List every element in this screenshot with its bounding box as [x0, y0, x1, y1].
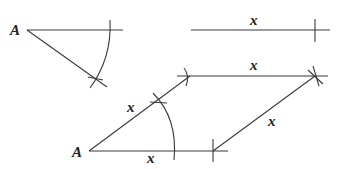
rhombus: A x x x x [71, 57, 328, 166]
given-length-segment: x [191, 12, 330, 42]
left-side-intersection-tick [150, 102, 167, 103]
vertex-label-a-step3: A [71, 144, 82, 160]
vertex-label-a-step1: A [9, 22, 20, 38]
left-side-label-x: x [126, 99, 135, 115]
top-side-label-x: x [249, 57, 258, 73]
rhombus-right-side [213, 76, 315, 151]
length-label-x: x [249, 12, 258, 28]
rhombus-construction-diagram: A x A x x x x [0, 0, 349, 169]
angle-construction: A [9, 20, 123, 88]
top-left-tick [184, 68, 188, 86]
bottom-side-label-x: x [146, 150, 155, 166]
right-side-label-x: x [267, 113, 276, 129]
rhombus-left-side [89, 76, 190, 151]
top-right-cross-2 [308, 70, 323, 84]
